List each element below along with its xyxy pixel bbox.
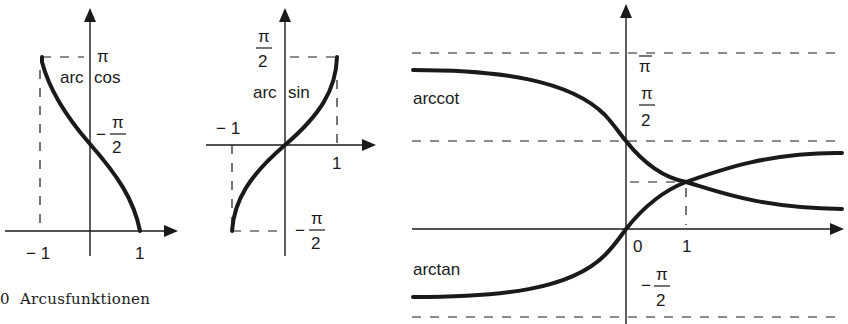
x-label-one: 1: [135, 244, 144, 263]
y-label-bot-num: π: [311, 209, 323, 228]
arccos-plot: π arc cos − π 2 − 1 1: [5, 10, 176, 263]
y-label-neg-den: 2: [656, 291, 665, 310]
y-label-halfpi-den: 2: [112, 138, 121, 157]
y-label-halfpi-num: π: [112, 113, 124, 132]
y-label-pi: π: [639, 57, 651, 76]
y-label-pi: π: [97, 47, 109, 66]
figure-caption: 0 Arcusfunktionen: [0, 290, 150, 308]
y-label-top-num: π: [258, 27, 270, 46]
x-label-one: 1: [682, 237, 691, 256]
function-label-arc: arc: [253, 83, 277, 102]
y-label-half-den: 2: [641, 111, 650, 130]
arcsin-plot: π 2 arc sin − 1 1 − π 2: [206, 10, 374, 256]
y-label-neg-sign: −: [641, 276, 651, 295]
y-label-halfpi-sign: −: [96, 125, 106, 144]
y-label-half-num: π: [641, 84, 653, 103]
x-label-neg-one: − 1: [26, 244, 50, 263]
arctan-curve: [413, 153, 842, 297]
y-label-bot-sign: −: [295, 221, 305, 240]
arccot-label: arccot: [413, 89, 460, 108]
function-label-sin: sin: [288, 83, 310, 102]
x-label-zero: 0: [633, 237, 642, 256]
arctan-label: arctan: [413, 260, 460, 279]
arccot-curve: [413, 70, 842, 209]
function-label-arc: arc: [60, 68, 84, 87]
function-label-cos: cos: [94, 68, 120, 87]
arccos-curve: [42, 57, 140, 231]
x-label-neg-one: − 1: [216, 119, 240, 138]
arctan-arccot-plot: arccot arctan π π 2 0 1 − π 2: [412, 6, 842, 324]
y-label-neg-num: π: [656, 265, 668, 284]
arcus-functions-figure: π arc cos − π 2 − 1 1 π 2 arc sin − 1 1 …: [0, 0, 848, 324]
x-label-one: 1: [332, 154, 341, 173]
y-label-top-den: 2: [258, 52, 267, 71]
y-label-bot-den: 2: [311, 234, 320, 253]
